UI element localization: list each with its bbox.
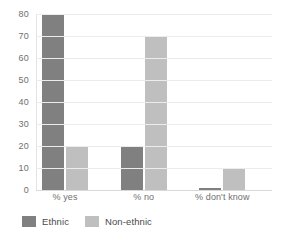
gridline [36,36,272,37]
y-axis-tick-label: 20 [19,141,29,151]
y-axis-tick-label: 30 [19,119,29,129]
bar-non-ethnic-2 [223,168,245,190]
x-axis: % yes% no% don't know [36,192,272,208]
legend-swatch-icon [22,216,36,227]
y-axis: 01020304050607080 [0,0,34,200]
y-axis-tick-label: 10 [19,163,29,173]
plot-wrapper: 01020304050607080 % yes% no% don't know [0,0,298,200]
x-axis-tick-label: % yes [52,192,77,202]
y-axis-tick-label: 0 [24,185,29,195]
x-axis-tick-label: % don't know [195,192,249,202]
y-axis-tick-label: 60 [19,53,29,63]
gridline [36,190,272,191]
gridline [36,58,272,59]
plot-area [36,14,272,190]
gridline [36,14,272,15]
gridline [36,102,272,103]
legend-label: Ethnic [42,216,69,227]
gridline [36,124,272,125]
y-axis-tick-label: 50 [19,75,29,85]
y-axis-tick-label: 70 [19,31,29,41]
gridline [36,146,272,147]
legend-label: Non-ethnic [105,216,152,227]
y-axis-tick-label: 80 [19,9,29,19]
legend-item-ethnic[interactable]: Ethnic [22,216,69,227]
y-axis-tick-label: 40 [19,97,29,107]
chart-legend: EthnicNon-ethnic [22,216,152,227]
legend-swatch-icon [85,216,99,227]
x-axis-tick-label: % no [133,192,154,202]
bar-non-ethnic-1 [145,36,167,190]
gridline [36,80,272,81]
legend-item-non-ethnic[interactable]: Non-ethnic [85,216,152,227]
gridline [36,168,272,169]
bar-chart: 01020304050607080 % yes% no% don't know … [0,0,298,239]
